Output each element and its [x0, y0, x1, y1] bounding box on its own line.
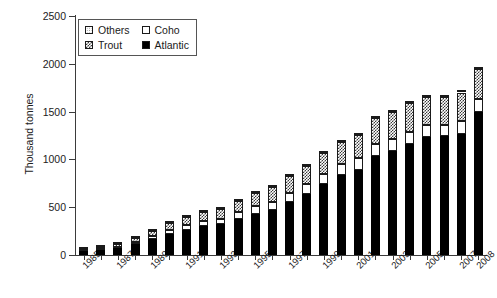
bar-segment-trout	[96, 247, 105, 249]
bar-segment-others	[131, 236, 140, 238]
bar-1998	[302, 166, 311, 255]
x-axis-tick	[135, 255, 136, 260]
bar-segment-coho	[319, 174, 328, 185]
bar-segment-trout	[440, 97, 449, 125]
bar-2005	[422, 96, 431, 255]
bar-segment-atlantic	[148, 239, 157, 255]
bar-segment-others	[234, 199, 243, 201]
y-axis-tick	[69, 112, 75, 113]
y-axis-tick	[69, 16, 75, 17]
bar-segment-coho	[354, 158, 363, 169]
x-axis-tick	[341, 255, 342, 260]
bar-segment-others	[96, 245, 105, 247]
bar-2008	[474, 68, 483, 255]
bar-segment-trout	[337, 142, 346, 164]
bar-segment-others	[440, 95, 449, 97]
bar-segment-others	[405, 101, 414, 103]
bar-segment-trout	[388, 112, 397, 139]
bar-1985	[79, 248, 88, 255]
legend-item-others: Others	[85, 24, 130, 36]
bar-1995	[251, 192, 260, 255]
bar-segment-others	[199, 210, 208, 212]
bar-segment-atlantic	[457, 134, 466, 255]
chart-legend: OthersCohoTroutAtlantic	[78, 19, 197, 56]
y-axis-tick	[69, 255, 75, 256]
bar-segment-others	[165, 221, 174, 223]
bar-segment-coho	[268, 202, 277, 210]
bar-2002	[371, 118, 380, 255]
bar-segment-atlantic	[302, 194, 311, 255]
x-axis-tick	[307, 255, 308, 260]
bar-segment-trout	[354, 135, 363, 159]
bar-segment-atlantic	[285, 202, 294, 255]
bar-segment-coho	[302, 184, 311, 194]
bar-2000	[337, 141, 346, 255]
bar-segment-atlantic	[337, 175, 346, 255]
y-axis-tick-label: 2000	[43, 58, 66, 70]
bar-2007	[457, 92, 466, 255]
y-axis-tick	[69, 159, 75, 160]
legend-label: Trout	[98, 39, 122, 51]
bar-segment-coho	[440, 125, 449, 137]
bar-segment-others	[113, 242, 122, 244]
x-axis-tick	[238, 255, 239, 260]
y-axis-tick-label: 500	[48, 201, 66, 213]
bar-segment-others	[268, 185, 277, 187]
y-axis-tick-label: 0	[60, 249, 66, 261]
coho-swatch	[142, 26, 150, 34]
bar-2001	[354, 134, 363, 255]
bar-segment-others	[302, 164, 311, 166]
y-axis-tick-label: 2500	[43, 10, 66, 22]
bar-segment-coho	[216, 219, 225, 225]
bar-segment-coho	[371, 144, 380, 155]
bar-segment-trout	[302, 166, 311, 184]
legend-item-coho: Coho	[142, 24, 189, 36]
bar-segment-atlantic	[216, 224, 225, 255]
bar-segment-atlantic	[319, 184, 328, 255]
bar-1996	[268, 187, 277, 255]
bar-segment-others	[148, 229, 157, 231]
bar-segment-others	[457, 90, 466, 92]
bar-1999	[319, 153, 328, 255]
bar-segment-others	[422, 95, 431, 97]
bar-segment-atlantic	[474, 112, 483, 255]
bar-segment-atlantic	[440, 136, 449, 255]
bar-segment-atlantic	[388, 151, 397, 255]
bar-segment-others	[79, 247, 88, 249]
bar-segment-others	[285, 174, 294, 176]
bar-segment-coho	[182, 225, 191, 229]
bar-segment-atlantic	[131, 244, 140, 255]
bar-1987	[113, 244, 122, 255]
y-axis-tick-label: 1000	[43, 153, 66, 165]
bar-1990	[165, 223, 174, 255]
bar-segment-trout	[285, 176, 294, 193]
bar-segment-trout	[251, 193, 260, 206]
legend-label: Atlantic	[155, 39, 189, 51]
bar-segment-atlantic	[199, 226, 208, 255]
bar-segment-others	[474, 67, 483, 69]
bar-2003	[388, 112, 397, 255]
bar-segment-others	[354, 133, 363, 135]
bar-segment-coho	[131, 242, 140, 244]
bar-segment-trout	[319, 153, 328, 174]
bar-2006	[440, 96, 449, 255]
bar-segment-others	[182, 215, 191, 217]
bar-segment-coho	[337, 164, 346, 175]
bar-segment-coho	[422, 125, 431, 137]
x-axis-tick	[375, 255, 376, 260]
legend-label: Others	[98, 24, 130, 36]
bar-segment-others	[388, 110, 397, 112]
others-swatch	[85, 26, 93, 34]
bar-segment-trout	[234, 201, 243, 212]
bar-1991	[182, 217, 191, 255]
bar-segment-others	[251, 191, 260, 193]
bar-1994	[234, 200, 243, 255]
bar-segment-atlantic	[165, 234, 174, 256]
x-axis-tick	[444, 255, 445, 260]
bar-segment-coho	[165, 230, 174, 233]
bar-segment-trout	[199, 212, 208, 221]
bar-segment-atlantic	[354, 170, 363, 255]
bar-segment-trout	[216, 209, 225, 219]
legend-item-trout: Trout	[85, 39, 130, 51]
